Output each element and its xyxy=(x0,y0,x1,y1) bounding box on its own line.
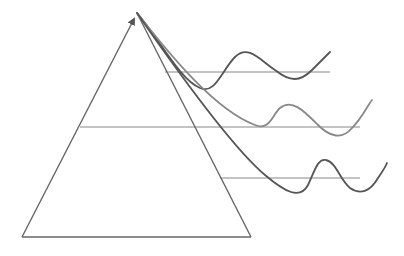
diagram-svg xyxy=(0,0,404,256)
pyramid-triangle xyxy=(22,13,251,237)
curve-top-wave xyxy=(137,13,330,89)
triangle-left-edge-arrow xyxy=(22,19,134,237)
wave-curves xyxy=(137,13,387,193)
curve-middle-wave xyxy=(137,13,372,136)
curve-bottom-wave xyxy=(137,13,387,193)
pyramid-diagram xyxy=(0,0,404,256)
triangle-right-edge xyxy=(137,13,251,237)
